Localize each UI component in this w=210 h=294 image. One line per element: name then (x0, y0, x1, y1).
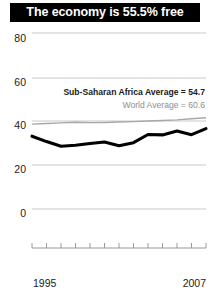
economic-freedom-chart: The economy is 55.5% free (0, 0, 210, 294)
y-tick-100: 100 (0, 0, 26, 1)
plot-area: 0 20 40 60 80 100 1995 2007 (0, 26, 210, 266)
y-tick-20: 20 (0, 164, 26, 175)
y-tick-40: 40 (0, 120, 26, 131)
x-tick-end: 2007 (183, 278, 206, 289)
x-axis (32, 243, 206, 248)
gridlines (32, 33, 206, 209)
chart-title-bar: The economy is 55.5% free (10, 3, 200, 22)
world-average-annotation: World Average = 60.6 (0, 101, 205, 110)
africa-average-annotation: Sub-Saharan Africa Average = 54.7 (0, 88, 205, 97)
x-tick-start: 1995 (33, 278, 56, 289)
y-tick-80: 80 (0, 33, 26, 44)
sub-saharan-africa-line (32, 129, 206, 147)
y-tick-0: 0 (0, 208, 26, 219)
y-tick-60: 60 (0, 77, 26, 88)
plot-svg (0, 26, 210, 266)
chart-title: The economy is 55.5% free (26, 6, 183, 19)
